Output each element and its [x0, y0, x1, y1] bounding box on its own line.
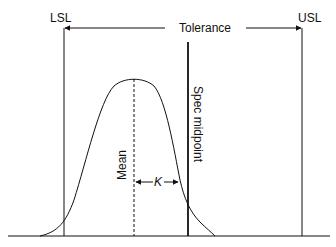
- tolerance-label: Tolerance: [179, 21, 231, 35]
- process-capability-diagram: LSL USL Tolerance Spec midpoint Mean K: [0, 0, 336, 247]
- lsl-label: LSL: [50, 11, 72, 25]
- k-label: K: [154, 175, 163, 189]
- mean-label: Mean: [115, 150, 129, 180]
- spec-midpoint-label: Spec midpoint: [191, 86, 205, 163]
- usl-label: USL: [298, 11, 322, 25]
